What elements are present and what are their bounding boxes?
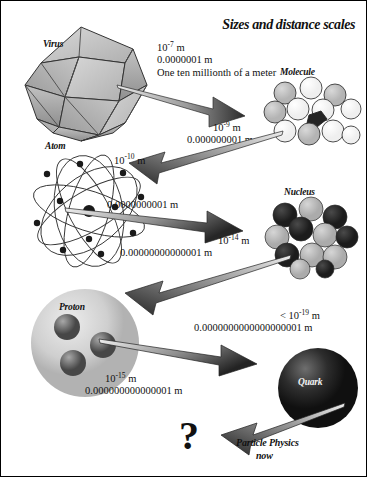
scale-virus-words: One ten millionth of a meter	[157, 67, 276, 78]
footer-note-line2: now	[256, 450, 273, 461]
label-molecule: Molecule	[280, 67, 315, 77]
footer-note-line1: Particle Physics	[236, 437, 299, 448]
scale-proton-power: 10-15 m	[105, 373, 136, 384]
diagram-canvas: Sizes and distance scales	[0, 0, 367, 477]
label-nucleus: Nucleus	[284, 187, 315, 197]
scale-nucleus-power: 10-14 m	[218, 235, 249, 246]
page-title: Sizes and distance scales	[222, 17, 355, 33]
scale-quark-power: < 10-19 m	[280, 310, 320, 321]
label-virus: Virus	[43, 39, 63, 49]
scale-quark-decimal: 0.0000000000000000001 m	[194, 322, 312, 333]
label-atom: Atom	[45, 141, 65, 151]
label-quark: Quark	[298, 377, 322, 387]
label-proton: Proton	[59, 302, 85, 312]
scale-text-quark: < 10-19 m 0.0000000000000000001 m	[194, 306, 320, 335]
scale-text-virus: 10-7 m 0.0000001 m One ten millionth of …	[157, 38, 276, 79]
scale-virus-decimal: 0.0000001 m	[157, 54, 212, 65]
scale-atom-power: 10-10 m	[114, 151, 145, 167]
scale-virus-power: 10-7 m	[157, 42, 185, 53]
scale-text-proton: 10-15 m 0.000000000000001 m	[97, 369, 182, 398]
unknown-question-mark: ?	[179, 416, 199, 456]
scale-proton-decimal: 0.000000000000001 m	[85, 385, 182, 396]
